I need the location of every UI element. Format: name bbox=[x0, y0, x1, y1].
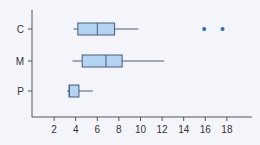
box-P bbox=[69, 85, 79, 97]
x-tick-label: 2 bbox=[51, 124, 57, 135]
box-plot-chart: 24681012141618CMP bbox=[0, 0, 260, 145]
x-tick-label: 4 bbox=[73, 124, 79, 135]
x-tick-label: 10 bbox=[135, 124, 147, 135]
x-tick-label: 8 bbox=[116, 124, 122, 135]
y-tick-label: M bbox=[16, 56, 24, 67]
x-tick-label: 18 bbox=[221, 124, 233, 135]
outlier-point bbox=[221, 27, 225, 31]
box-C bbox=[78, 23, 115, 35]
x-tick-label: 16 bbox=[200, 124, 212, 135]
x-tick-label: 14 bbox=[178, 124, 190, 135]
y-tick-label: P bbox=[17, 86, 24, 97]
box-M bbox=[82, 55, 122, 67]
y-tick-label: C bbox=[17, 24, 24, 35]
outlier-point bbox=[202, 27, 206, 31]
x-tick-label: 12 bbox=[157, 124, 169, 135]
x-tick-label: 6 bbox=[95, 124, 101, 135]
